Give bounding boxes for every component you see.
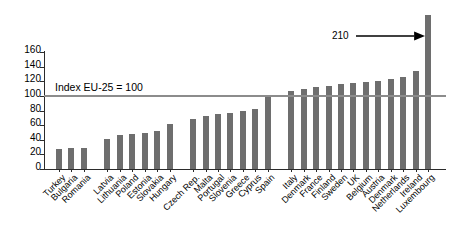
bar xyxy=(375,81,381,169)
reference-line-label: Index EU-25 = 100 xyxy=(55,82,143,93)
annotation-210-label: 210 xyxy=(332,31,349,41)
bar xyxy=(56,149,62,169)
bar xyxy=(288,91,294,169)
x-axis-labels: TurkeyBulgariaRomaniaLatviaLithuaniaPola… xyxy=(0,169,454,247)
reference-line-100 xyxy=(44,95,446,97)
bar xyxy=(301,89,307,169)
bar xyxy=(313,87,319,169)
annotation-arrow-icon xyxy=(356,30,425,42)
bar-chart: 020406080100120140160 Index EU-25 = 100 … xyxy=(0,0,454,247)
